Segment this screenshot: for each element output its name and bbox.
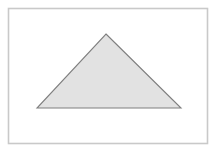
figure-canvas [0, 0, 217, 153]
figure-container [0, 0, 217, 153]
